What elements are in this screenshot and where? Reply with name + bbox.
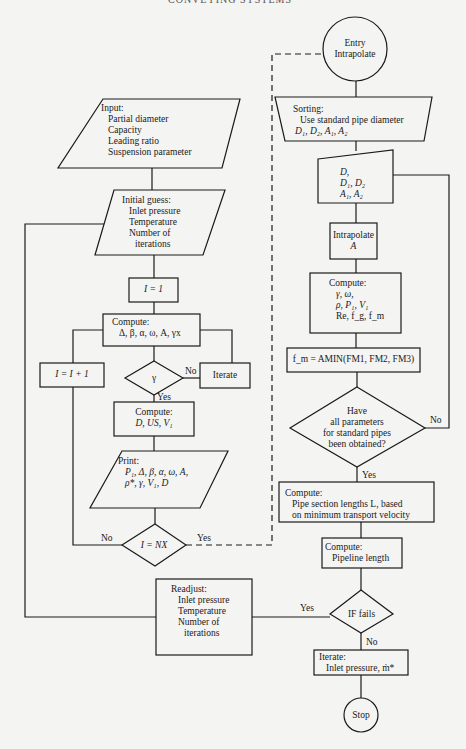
readjust-item: Temperature [171, 606, 229, 617]
intrapolate-node: Intrapolate A [330, 230, 377, 252]
initial-guess-title: Initial guess: [122, 195, 180, 206]
readjust-item: Inlet pressure [171, 595, 229, 606]
sorting-node: Sorting: Use standard pipe diameter D₁, … [293, 104, 404, 137]
gamma-no-label: No [185, 366, 197, 376]
input-title: Input: [101, 103, 192, 114]
manual-input-line2: D₁, D₂ [340, 178, 365, 189]
input-item: Suspension parameter [101, 147, 192, 158]
compute4-line2: on minimum transport velocity [285, 510, 410, 521]
compute2-title: Compute: [114, 407, 194, 418]
gamma-yes-label: Yes [157, 392, 171, 402]
nx-decision-label: I = NX [141, 540, 167, 550]
init-counter-node: I = 1 [129, 284, 178, 295]
manual-input-node: D, D₁, D₂ A₁, A₂ [340, 167, 365, 200]
compute1-node: Compute: Δ, β, α, ω, A, γx [112, 317, 181, 339]
gamma-node: γ [125, 373, 183, 384]
compute3-title: Compute: [329, 278, 384, 289]
readjust-item: iterations [171, 628, 229, 639]
print-line1: P₁, Δ, β, α, ω, A, [118, 467, 188, 478]
nx-no-label: No [101, 533, 113, 543]
sorting-line2: D₁, D₂, A₁, A₂ [293, 126, 404, 137]
nx-decision-node: I = NX [122, 540, 186, 551]
intrapolate-line1: Intrapolate [330, 230, 377, 241]
print-title: Print: [118, 456, 188, 467]
params-line3: for standard pipes [300, 428, 414, 439]
if-fails-label: IF fails [348, 609, 375, 619]
compute2-expr: D, US, V₁ [114, 418, 194, 429]
nx-yes-label: Yes [197, 533, 211, 543]
fm-assign-label: f_m = AMIN(FM1, FM2, FM3) [293, 354, 415, 364]
params-decision-node: Have all parameters for standard pipes b… [300, 406, 414, 450]
compute4-node: Compute: Pipe section lengths L, based o… [285, 488, 410, 521]
iterate2-line1: Inlet pressure, ṁ* [319, 663, 394, 674]
print-node: Print: P₁, Δ, β, α, ω, A, ρ*, γ, V₁, D [118, 456, 188, 489]
params-line4: been obtained? [300, 439, 414, 450]
compute1-expr: Δ, β, α, ω, A, γx [112, 328, 181, 339]
readjust-item: Number of [171, 617, 229, 628]
input-node: Input: Partial diameter Capacity Leading… [101, 103, 192, 158]
sorting-line1: Use standard pipe diameter [293, 115, 404, 126]
params-line1: Have [300, 406, 414, 417]
manual-input-line3: A₁, A₂ [340, 189, 365, 200]
iterate-node: Iterate [200, 370, 250, 381]
entry-line2: Intrapolate [323, 49, 387, 60]
iterate-label: Iterate [213, 370, 237, 380]
if-fails-node: IF fails [330, 609, 393, 620]
increment-label: I = I + 1 [55, 369, 88, 379]
compute5-node: Compute: Pipeline length [325, 542, 389, 564]
params-line2: all parameters [300, 417, 414, 428]
compute4-title: Compute: [285, 488, 410, 499]
params-yes-label: Yes [362, 470, 376, 480]
if-fails-no-label: No [366, 637, 378, 647]
input-item: Partial diameter [101, 114, 192, 125]
print-line2: ρ*, γ, V₁, D [118, 478, 188, 489]
initial-guess-item: Temperature [122, 217, 180, 228]
compute5-line1: Pipeline length [325, 553, 389, 564]
initial-guess-item: Number of [122, 228, 180, 239]
entry-line1: Entry [323, 38, 387, 49]
stop-label: Stop [352, 710, 369, 720]
gamma-label: γ [152, 373, 156, 383]
input-item: Leading ratio [101, 136, 192, 147]
compute3-line1: γ, ω, [329, 289, 384, 300]
entry-node: Entry Intrapolate [323, 38, 387, 60]
compute2-node: Compute: D, US, V₁ [114, 407, 194, 429]
fm-assign-node: f_m = AMIN(FM1, FM2, FM3) [287, 354, 420, 365]
initial-guess-item: Inlet pressure [122, 206, 180, 217]
stop-node: Stop [344, 710, 378, 721]
intrapolate-line2: A [330, 241, 377, 252]
compute5-title: Compute: [325, 542, 389, 553]
manual-input-line1: D, [340, 167, 365, 178]
iterate2-title: Iterate: [319, 652, 394, 663]
compute1-title: Compute: [112, 317, 181, 328]
params-no-label: No [430, 415, 442, 425]
initial-guess-node: Initial guess: Inlet pressure Temperatur… [122, 195, 180, 250]
iterate2-node: Iterate: Inlet pressure, ṁ* [319, 652, 394, 674]
if-fails-yes-label: Yes [300, 603, 314, 613]
input-item: Capacity [101, 125, 192, 136]
compute3-line2: ρ, P₁, V₁ [329, 300, 384, 311]
compute3-node: Compute: γ, ω, ρ, P₁, V₁ Re, f_g, f_m [329, 278, 384, 322]
initial-guess-item: iterations [122, 239, 180, 250]
readjust-node: Readjust: Inlet pressure Temperature Num… [171, 584, 229, 639]
init-counter-label: I = 1 [144, 284, 163, 294]
compute4-line1: Pipe section lengths L, based [285, 499, 410, 510]
increment-node: I = I + 1 [40, 369, 104, 380]
sorting-title: Sorting: [293, 104, 404, 115]
compute3-line3: Re, f_g, f_m [329, 311, 384, 322]
readjust-title: Readjust: [171, 584, 229, 595]
